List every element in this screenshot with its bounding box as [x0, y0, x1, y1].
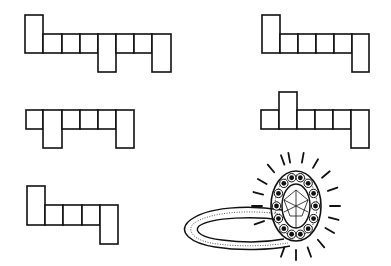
net-cell	[63, 205, 82, 225]
net-cell	[80, 34, 98, 53]
net-cell	[352, 34, 369, 72]
net-cell	[98, 34, 116, 72]
net-cell	[116, 110, 134, 148]
net-cell	[351, 110, 369, 148]
gem-center	[313, 204, 318, 209]
net-cell	[152, 34, 171, 72]
sparkle-ray	[258, 179, 267, 184]
sparkle-ray	[302, 153, 304, 163]
net-cell	[25, 15, 43, 53]
net-cell	[82, 205, 100, 225]
gem-center	[276, 191, 281, 196]
sparkle-ray	[288, 153, 290, 163]
net-cell	[279, 92, 297, 129]
gem-center	[311, 191, 316, 196]
net-cell	[45, 205, 63, 225]
net-cell	[43, 110, 62, 148]
sparkle-ray	[281, 155, 284, 164]
net-cell	[280, 34, 298, 53]
net-cell	[262, 15, 280, 53]
center-stone	[282, 184, 310, 228]
net-a	[25, 15, 171, 72]
sparkle-ray	[329, 217, 339, 220]
net-cell	[134, 34, 152, 53]
net-cell	[98, 110, 116, 129]
net-c	[26, 110, 134, 148]
net-b	[262, 15, 369, 72]
net-cell	[298, 34, 316, 53]
diagram-canvas	[0, 0, 391, 266]
sparkle-ray	[308, 247, 311, 256]
gem-center	[274, 204, 279, 209]
sparkle-ray	[255, 221, 264, 224]
net-cell	[334, 34, 352, 53]
net-cell	[27, 186, 45, 225]
gem-center	[298, 175, 303, 180]
net-d	[261, 92, 369, 148]
net-cell	[80, 110, 98, 129]
gem-center	[306, 226, 311, 231]
gem-center	[281, 226, 286, 231]
net-cell	[62, 110, 80, 129]
gem-center	[306, 181, 311, 186]
sparkle-ray	[281, 247, 284, 256]
net-cell	[26, 110, 43, 129]
net-cell	[43, 34, 62, 53]
sparkle-ray	[268, 165, 274, 173]
gem-center	[281, 181, 286, 186]
gem-center	[289, 175, 294, 180]
net-cell	[315, 110, 333, 129]
gem-center	[289, 232, 294, 237]
sparkle-ray	[325, 228, 334, 233]
gem-center	[298, 232, 303, 237]
net-cell	[333, 110, 351, 129]
net-cell	[100, 205, 118, 244]
gem-center	[276, 216, 281, 221]
net-cell	[62, 34, 80, 53]
sparkle-ray	[328, 188, 337, 191]
net-e	[27, 186, 118, 244]
sparkle-ray	[313, 159, 318, 168]
sparkle-ray	[253, 192, 263, 195]
gem-center	[311, 216, 316, 221]
sparkle-ray	[318, 240, 324, 248]
ring-band	[184, 207, 290, 249]
net-cell	[316, 34, 334, 53]
ring-illustration	[184, 153, 340, 260]
net-cell	[116, 34, 134, 53]
net-cell	[297, 110, 315, 129]
net-cell	[261, 110, 279, 129]
sparkle-ray	[322, 171, 330, 177]
